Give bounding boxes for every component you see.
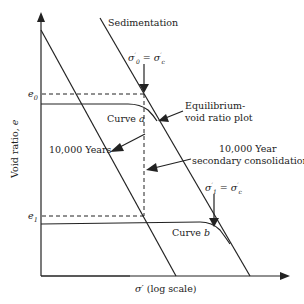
ten-thousand-years-label: 10,000 Years (49, 144, 112, 155)
e1-tick-label: e1 (28, 210, 38, 224)
sedimentation-label: Sedimentation (108, 17, 178, 28)
sigma1-arrow-head-icon (209, 218, 219, 227)
equilibrium-arrow-head-icon (158, 114, 169, 122)
void-ratio-diagram: Sedimentation σ′0 = σ′c σ′1 = σ′c Curve … (0, 0, 304, 304)
equilibrium-label-line2: void ratio plot (184, 112, 253, 123)
secondary-label-line1: 10,000 Year (219, 143, 277, 154)
e0-tick-label: e0 (28, 88, 38, 102)
y-axis-label: Void ratio, e (9, 119, 20, 179)
x-axis-label: σ′ (log scale) (135, 283, 196, 294)
curve-b-label: Curve b (172, 227, 210, 238)
curve-a-label: Curve a (107, 113, 145, 124)
secondary-consolidation-arrow-head-icon (146, 163, 158, 172)
ten-thousand-years-arrow-head-icon (110, 143, 124, 152)
ten-thousand-years-arrow (118, 134, 145, 148)
secondary-consolidation-arrow (154, 159, 191, 168)
sigma1-label: σ′1 = σ′c (205, 181, 243, 195)
x-axis-arrow-icon (280, 272, 290, 280)
equilibrium-label-line1: Equilibrium- (185, 100, 245, 111)
sigma0-label: σ′0 = σ′c (128, 51, 166, 65)
secondary-label-line2: secondary consolidation (192, 155, 304, 166)
y-axis-arrow-icon (37, 12, 45, 22)
